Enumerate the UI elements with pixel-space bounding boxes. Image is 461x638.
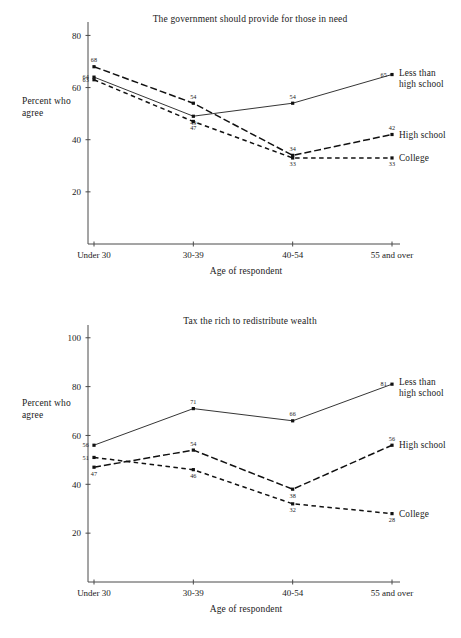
y-axis-label-line1: Percent who — [22, 398, 71, 408]
data-point-label: 63 — [83, 76, 89, 83]
y-tick-label: 40 — [72, 135, 82, 145]
x-tick-label: Under 30 — [77, 250, 111, 260]
chart-government-provide: The government should provide for those … — [0, 0, 461, 300]
plot-area: The government should provide for those … — [22, 14, 446, 276]
series-line-0 — [94, 75, 392, 117]
series-legend-label: Less thanhigh school — [399, 68, 444, 89]
series-legend-line1: College — [399, 153, 429, 163]
data-point-label: 51 — [83, 454, 89, 461]
y-tick-label: 40 — [72, 480, 82, 490]
x-axis-label: Age of respondent — [210, 266, 283, 276]
y-axis-label: Percent whoagree — [22, 96, 71, 118]
data-point-marker — [192, 102, 195, 105]
series-legend-line2: high school — [399, 79, 444, 89]
data-point-label: 54 — [289, 93, 295, 100]
data-point-marker — [291, 156, 294, 159]
x-tick-label: 30-39 — [183, 250, 204, 260]
series-legend-line1: College — [399, 509, 429, 519]
y-tick-label: 80 — [72, 31, 82, 41]
y-tick-label: 80 — [72, 382, 82, 392]
series-legend-line2: high school — [399, 388, 444, 398]
y-axis-label: Percent whoagree — [22, 398, 71, 420]
data-point-label: 81 — [381, 380, 387, 387]
data-point-label: 38 — [289, 492, 295, 499]
data-point-label: 28 — [389, 516, 395, 523]
series-line-2 — [94, 457, 392, 513]
data-point-marker — [192, 468, 195, 471]
data-point-marker — [390, 383, 393, 386]
y-axis-label-line2: agree — [22, 410, 43, 420]
data-point-label: 46 — [190, 472, 196, 479]
series-legend-label: High school — [399, 440, 446, 450]
y-axis-label-line2: agree — [22, 108, 43, 118]
y-tick-label: 60 — [72, 431, 82, 441]
data-point-label: 65 — [381, 71, 387, 78]
y-axis-label-line1: Percent who — [22, 96, 71, 106]
data-point-label: 54 — [190, 440, 196, 447]
line-chart-bottom: Tax the rich to redistribute wealth20406… — [0, 300, 461, 638]
series-legend-label: College — [399, 509, 429, 519]
data-point-label: 47 — [190, 124, 196, 131]
line-chart-top: The government should provide for those … — [0, 0, 461, 300]
data-point-marker — [192, 115, 195, 118]
data-point-label: 34 — [289, 145, 295, 152]
data-point-marker — [192, 407, 195, 410]
data-point-label: 32 — [289, 506, 295, 513]
series-legend-line1: High school — [399, 130, 446, 140]
data-point-marker — [390, 73, 393, 76]
plot-area: Tax the rich to redistribute wealth20406… — [22, 316, 446, 614]
series-legend-label: Less thanhigh school — [399, 377, 444, 398]
data-point-label: 42 — [389, 124, 395, 131]
data-point-marker — [291, 102, 294, 105]
data-point-label: 33 — [289, 160, 295, 167]
x-tick-label: 40-54 — [282, 588, 303, 598]
chart-tax-the-rich: Tax the rich to redistribute wealth20406… — [0, 300, 461, 638]
data-point-marker — [192, 449, 195, 452]
data-point-marker — [192, 120, 195, 123]
data-point-marker — [92, 78, 95, 81]
chart-title: Tax the rich to redistribute wealth — [183, 316, 317, 326]
data-point-label: 71 — [190, 398, 196, 405]
x-tick-label: Under 30 — [77, 588, 111, 598]
y-tick-label: 60 — [72, 83, 82, 93]
series-legend-label: College — [399, 153, 429, 163]
data-point-marker — [390, 133, 393, 136]
x-axis-label: Age of respondent — [210, 604, 283, 614]
data-point-marker — [291, 502, 294, 505]
data-point-marker — [390, 156, 393, 159]
series-line-0 — [94, 384, 392, 445]
x-tick-label: 55 and over — [371, 250, 414, 260]
series-line-1 — [94, 67, 392, 156]
series-legend-line1: High school — [399, 440, 446, 450]
data-point-marker — [92, 466, 95, 469]
data-point-label: 56 — [389, 435, 395, 442]
series-legend-label: High school — [399, 130, 446, 140]
data-point-marker — [390, 512, 393, 515]
data-point-label: 33 — [389, 160, 395, 167]
series-line-1 — [94, 445, 392, 489]
data-point-marker — [291, 419, 294, 422]
y-tick-label: 20 — [72, 187, 82, 197]
data-point-marker — [92, 444, 95, 447]
data-point-label: 68 — [91, 56, 97, 63]
y-tick-label: 100 — [68, 333, 82, 343]
x-tick-label: 40-54 — [282, 250, 303, 260]
data-point-label: 47 — [91, 470, 97, 477]
chart-title: The government should provide for those … — [153, 14, 348, 24]
series-legend-line1: Less than — [399, 68, 436, 78]
series-legend-line1: Less than — [399, 377, 436, 387]
x-tick-label: 55 and over — [371, 588, 414, 598]
data-point-marker — [92, 65, 95, 68]
data-point-marker — [390, 444, 393, 447]
series-line-2 — [94, 80, 392, 158]
data-point-marker — [291, 488, 294, 491]
y-tick-label: 20 — [72, 528, 82, 538]
data-point-label: 66 — [289, 410, 295, 417]
data-point-marker — [92, 456, 95, 459]
x-tick-label: 30-39 — [183, 588, 204, 598]
data-point-label: 54 — [190, 93, 196, 100]
data-point-label: 56 — [83, 441, 89, 448]
